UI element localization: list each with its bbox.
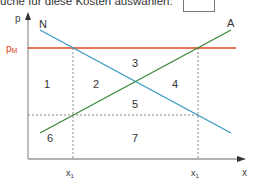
x1-tick-left: x1 — [66, 168, 75, 179]
region-2: 2 — [93, 78, 99, 90]
x-axis-label: x — [242, 167, 247, 178]
demand-label: N — [39, 18, 47, 30]
region-7: 7 — [132, 132, 138, 144]
x1-tick-right: x1 — [191, 168, 200, 179]
supply-label: A — [227, 17, 235, 29]
region-5: 5 — [132, 98, 138, 110]
price-diagram: p x N A pM x1 x1 1 2 3 4 5 6 7 — [0, 0, 254, 183]
region-3: 3 — [132, 57, 138, 69]
y-axis-arrow-icon — [25, 12, 31, 20]
x-axis-arrow-icon — [237, 156, 246, 162]
market-price-label: pM — [6, 43, 18, 54]
y-axis-label: p — [15, 13, 21, 24]
region-4: 4 — [172, 78, 178, 90]
region-1: 1 — [44, 78, 50, 90]
region-6: 6 — [47, 132, 53, 144]
